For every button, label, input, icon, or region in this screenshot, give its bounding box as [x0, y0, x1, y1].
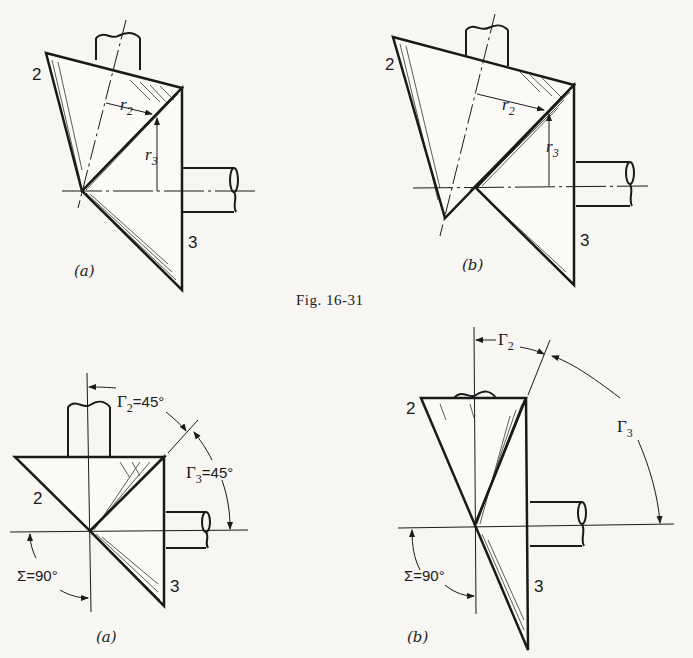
- panel-caption-bottom-a: (a): [96, 630, 117, 645]
- gear-2-label: 2: [33, 490, 42, 507]
- sigma-label: Σ=90°: [404, 567, 445, 584]
- r3-label: r3: [546, 138, 559, 155]
- r3-label: r3: [145, 146, 158, 163]
- r2-label: r2: [502, 96, 515, 113]
- bevel-gear-diagram: [0, 0, 693, 658]
- gear-2-label: 2: [32, 66, 41, 83]
- gear-3-label: 3: [170, 578, 179, 595]
- gamma3-label: Γ3=45°: [186, 464, 233, 481]
- gear-2-label: 2: [385, 56, 394, 73]
- gear-3-label: 3: [534, 578, 543, 595]
- gamma2-label: Γ2=45°: [117, 393, 164, 410]
- panel-caption-bottom-b: (b): [407, 630, 428, 645]
- gear-3-label: 3: [188, 234, 197, 251]
- sigma-label: Σ=90°: [17, 567, 58, 584]
- gamma2-label: Γ2: [498, 331, 514, 348]
- figure-caption: Fig. 16-31: [296, 293, 364, 308]
- panel-caption-top-b: (b): [462, 258, 483, 273]
- panel-caption-top-a: (a): [74, 264, 95, 279]
- gamma3-label: Γ3: [617, 418, 633, 435]
- top-b-gears: [393, 14, 648, 285]
- gear-2-label: 2: [406, 400, 415, 417]
- bottom-b-gears: [398, 327, 674, 650]
- gear-3-label: 3: [580, 232, 589, 249]
- r2-label: r2: [120, 96, 133, 113]
